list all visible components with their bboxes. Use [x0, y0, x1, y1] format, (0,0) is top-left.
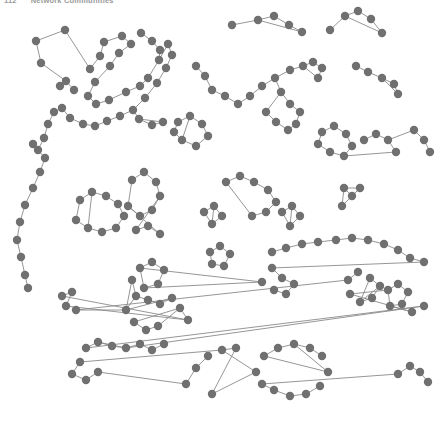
graph-edge: [344, 152, 396, 156]
graph-node: [330, 122, 338, 130]
graph-node: [100, 38, 108, 46]
graph-node: [94, 338, 102, 346]
graph-node: [394, 370, 402, 378]
graph-node: [37, 59, 45, 67]
graph-node: [182, 380, 190, 388]
graph-node: [148, 258, 156, 266]
graph-node: [410, 126, 418, 134]
graph-edge: [88, 192, 92, 228]
graph-node: [62, 302, 70, 310]
graph-node: [21, 271, 29, 279]
graph-node: [132, 292, 140, 300]
graph-node: [128, 276, 136, 284]
graph-node: [159, 118, 167, 126]
graph-node: [262, 108, 270, 116]
graph-node: [186, 112, 194, 120]
graph-node: [72, 306, 80, 314]
graph-node: [285, 21, 293, 29]
graph-node: [192, 62, 200, 70]
graph-node: [79, 120, 87, 128]
graph-node: [372, 130, 380, 138]
graph-node: [340, 184, 348, 192]
graph-edge: [212, 348, 236, 394]
graph-node: [153, 79, 161, 87]
graph-node: [168, 294, 176, 302]
graph-node: [404, 288, 412, 296]
graph-node: [136, 340, 144, 348]
graph-node: [130, 318, 138, 326]
graph-node: [208, 390, 216, 398]
graph-node: [40, 134, 48, 142]
graph-node: [137, 29, 145, 37]
graph-node: [406, 362, 414, 370]
graph-node: [84, 92, 92, 100]
graph-node: [36, 168, 44, 176]
graph-node: [156, 300, 164, 308]
graph-node: [367, 15, 375, 23]
graph-node: [91, 122, 99, 130]
graph-node: [105, 96, 113, 104]
graph-node: [32, 37, 40, 45]
graph-node: [232, 344, 240, 352]
graph-edge: [212, 372, 256, 394]
graph-edge: [126, 306, 424, 348]
graph-node: [356, 298, 364, 306]
graph-node: [115, 49, 123, 57]
graph-node: [260, 352, 268, 360]
figure-container: 112Network Communities: [0, 0, 443, 422]
graph-node: [290, 280, 298, 288]
graph-node: [380, 240, 388, 248]
graph-node: [346, 290, 354, 298]
graph-node: [390, 80, 398, 88]
graph-node: [314, 140, 322, 148]
graph-node: [29, 184, 37, 192]
graph-node: [103, 117, 111, 125]
graph-node: [296, 108, 304, 116]
graph-node: [129, 106, 137, 114]
graph-node: [286, 100, 294, 108]
graph-node: [338, 202, 346, 210]
graph-node: [292, 120, 300, 128]
graph-node: [270, 12, 278, 20]
graph-node: [376, 282, 384, 290]
graph-node: [286, 392, 294, 400]
graph-node: [17, 253, 25, 261]
graph-node: [309, 58, 317, 66]
graph-edge: [98, 372, 186, 384]
graph-node: [24, 284, 32, 292]
graph-node: [258, 82, 266, 90]
graph-node: [250, 178, 258, 186]
graph-node: [318, 64, 326, 72]
graph-node: [136, 212, 144, 220]
graph-node: [154, 322, 162, 330]
graph-node: [408, 308, 416, 316]
graph-node: [258, 278, 266, 286]
graph-node: [318, 352, 326, 360]
graph-node: [324, 368, 332, 376]
graph-node: [148, 346, 156, 354]
graph-node: [386, 302, 394, 310]
graph-node: [116, 112, 124, 120]
graph-node: [136, 82, 144, 90]
graph-node: [122, 306, 130, 314]
graph-node: [298, 240, 306, 248]
graph-node: [290, 340, 298, 348]
graph-node: [218, 212, 226, 220]
graph-node: [398, 300, 406, 308]
graph-node: [354, 7, 362, 15]
graph-node: [144, 222, 152, 230]
graph-node: [236, 172, 244, 180]
graph-node: [299, 62, 307, 70]
graph-node: [356, 184, 364, 192]
graph-node: [282, 244, 290, 252]
graph-node: [394, 246, 402, 254]
graph-node: [222, 178, 230, 186]
graph-node: [278, 208, 286, 216]
graph-node: [120, 212, 128, 220]
graph-node: [168, 51, 176, 59]
graph-node: [384, 136, 392, 144]
graph-edge: [222, 350, 256, 372]
graph-node: [44, 120, 52, 128]
graph-edge: [272, 262, 424, 268]
graph-node: [148, 121, 156, 129]
